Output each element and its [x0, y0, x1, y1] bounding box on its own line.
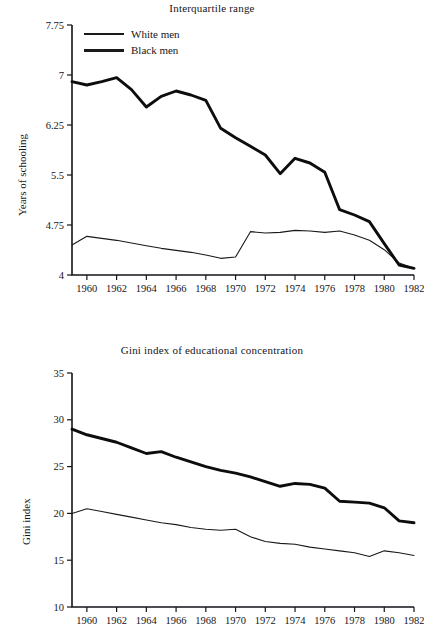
svg-text:7.75: 7.75	[46, 20, 64, 31]
svg-text:1964: 1964	[136, 615, 158, 626]
axes	[67, 373, 414, 612]
legend: White men Black men	[84, 26, 180, 58]
svg-text:1960: 1960	[76, 283, 97, 294]
svg-text:1980: 1980	[374, 283, 395, 294]
svg-text:1982: 1982	[404, 283, 424, 294]
legend-label-white-men: White men	[131, 29, 180, 40]
axes	[67, 25, 414, 280]
series-line-black-men	[72, 429, 414, 523]
svg-text:15: 15	[54, 555, 65, 566]
svg-text:1966: 1966	[166, 615, 187, 626]
series-line-white-men	[72, 230, 414, 268]
legend-swatch-black-men-icon	[84, 49, 124, 52]
svg-text:1974: 1974	[285, 615, 307, 626]
svg-text:25: 25	[54, 461, 65, 472]
svg-text:1970: 1970	[225, 283, 246, 294]
svg-text:5.5: 5.5	[51, 170, 64, 181]
svg-text:1980: 1980	[374, 615, 395, 626]
figure-page: Interquartile range Years of schooling 4…	[0, 0, 424, 634]
legend-item-white-men: White men	[84, 26, 180, 42]
chart-gini-index: Gini index of educational concentration …	[0, 330, 424, 634]
svg-text:1960: 1960	[76, 615, 97, 626]
svg-text:30: 30	[54, 414, 65, 425]
legend-label-black-men: Black men	[131, 45, 178, 56]
y-tick-labels: 44.755.56.2577.75	[46, 20, 65, 281]
svg-text:20: 20	[54, 508, 65, 519]
svg-text:4: 4	[59, 270, 65, 281]
plot-svg: 44.755.56.2577.75 1960196219641966196819…	[0, 0, 424, 320]
svg-text:1976: 1976	[314, 615, 335, 626]
svg-text:1978: 1978	[344, 283, 365, 294]
svg-text:1972: 1972	[255, 283, 276, 294]
series-line-white-men	[72, 509, 414, 557]
svg-text:1966: 1966	[166, 283, 187, 294]
x-tick-labels: 1960196219641966196819701972197419761978…	[76, 283, 424, 294]
svg-text:1982: 1982	[404, 615, 424, 626]
svg-text:10: 10	[54, 602, 65, 613]
svg-text:1968: 1968	[195, 283, 216, 294]
series-line-black-men	[72, 78, 414, 269]
plot-area: 44.755.56.2577.75 1960196219641966196819…	[0, 0, 424, 320]
plot-area: 101520253035 196019621964196619681970197…	[0, 330, 424, 634]
y-tick-labels: 101520253035	[54, 368, 65, 613]
svg-text:1962: 1962	[106, 615, 127, 626]
svg-text:1974: 1974	[285, 283, 307, 294]
x-tick-labels: 1960196219641966196819701972197419761978…	[76, 615, 424, 626]
svg-text:1978: 1978	[344, 615, 365, 626]
svg-text:1970: 1970	[225, 615, 246, 626]
svg-text:1964: 1964	[136, 283, 158, 294]
svg-text:7: 7	[59, 70, 64, 81]
svg-text:35: 35	[54, 368, 65, 379]
chart-interquartile-range: Interquartile range Years of schooling 4…	[0, 0, 424, 320]
svg-text:1968: 1968	[195, 615, 216, 626]
svg-text:4.75: 4.75	[46, 220, 64, 231]
legend-item-black-men: Black men	[84, 42, 180, 58]
plot-svg: 101520253035 196019621964196619681970197…	[0, 330, 424, 634]
svg-text:1976: 1976	[314, 283, 335, 294]
svg-text:1972: 1972	[255, 615, 276, 626]
svg-text:1962: 1962	[106, 283, 127, 294]
legend-swatch-white-men-icon	[84, 33, 124, 34]
svg-text:6.25: 6.25	[46, 120, 64, 131]
